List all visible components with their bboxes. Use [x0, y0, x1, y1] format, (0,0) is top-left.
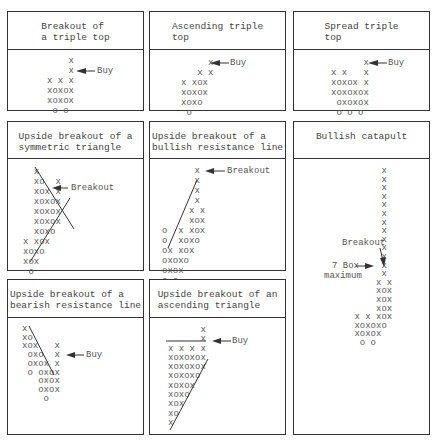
panel-header: Upside breakout of a bearish resistance … — [8, 280, 143, 318]
breakout-label: Breakout — [71, 183, 114, 193]
seven-box-label: 7 Box — [332, 261, 359, 271]
maximum-label: maximum — [324, 271, 362, 281]
arrow-icon — [205, 168, 214, 174]
pf-chart-grid: x x x x x x x x x x x x x x x xox xox xo… — [349, 167, 392, 347]
panel-header: Upside breakout of a bullish resistance … — [150, 122, 285, 159]
panel-header: Spread triple top — [294, 12, 429, 50]
buy-label: Buy — [86, 350, 102, 360]
pf-chart-grid: x x x x xoxox x xoxoxox oxoxox o o o — [331, 58, 369, 118]
pf-chart-grid: x x x x x xoxox xoxox o o — [47, 56, 74, 116]
panel-upside-breakout-ascending-triangle: Upside breakout of an ascending triangle… — [149, 279, 286, 435]
breakout-label: Breakout — [227, 166, 270, 176]
panel-title: Spread triple top — [324, 21, 398, 43]
panel-upside-breakout-symmetric-triangle: Upside breakout of a symmetric triangle … — [7, 121, 144, 271]
buy-label: Buy — [97, 66, 113, 76]
panel-header: Breakout of a triple top — [8, 12, 143, 50]
pf-chart-grid: x x x x xox xoxox xoxo o — [181, 58, 213, 118]
buy-label: Buy — [388, 58, 404, 68]
panel-upside-breakout-bullish-resistance-line: Upside breakout of a bullish resistance … — [149, 121, 286, 271]
panel-bullish-catapult: Bullish catapult x x x x x x x x x x x x… — [293, 121, 430, 435]
panel-header: Upside breakout of a symmetric triangle — [8, 122, 143, 159]
panel-title: Upside breakout of an ascending triangle — [158, 289, 278, 311]
panel-title: Breakout of a triple top — [41, 21, 109, 43]
panel-title: Upside breakout of a symmetric triangle — [18, 131, 132, 153]
pf-chart-grid: x x x x x x xoxoxox xoxoxox xoxoxo xoxox… — [168, 326, 206, 428]
panel-title: Upside breakout of a bullish resistance … — [152, 131, 283, 153]
panel-spread-triple-top: Spread triple top x x x x xoxox x xoxoxo… — [293, 11, 430, 111]
panel-title: Ascending triple top — [172, 21, 263, 43]
panel-upside-breakout-bearish-resistance-line: Upside breakout of a bearish resistance … — [7, 279, 144, 435]
panel-header: Bullish catapult — [294, 122, 429, 159]
panel-breakout-triple-top: Breakout of a triple top x x x x x xoxox… — [7, 11, 144, 111]
arrow-icon — [66, 352, 75, 358]
panel-title: Bullish catapult — [316, 131, 407, 142]
buy-label: Buy — [230, 58, 246, 68]
pf-chart-grid: x xo xox x oxo x oxox x o oxox oxox oxox… — [22, 325, 60, 403]
buy-label: Buy — [232, 336, 248, 346]
pf-chart-grid: x xo x xox x xoxox xoxox xoxox xoxo x xo… — [23, 167, 61, 277]
panel-header: Ascending triple top — [150, 12, 285, 50]
panel-title: Upside breakout of a bearish resistance … — [10, 289, 141, 311]
panel-ascending-triple-top: Ascending triple top x x x x xox xoxox x… — [149, 11, 286, 111]
breakout-label: Breakout — [342, 238, 385, 248]
pf-chart-grid: x x x x x x xox o x xox o xoxo ox xox ox… — [162, 166, 205, 286]
arrow-icon — [212, 338, 221, 344]
panel-header: Upside breakout of an ascending triangle — [150, 280, 285, 318]
